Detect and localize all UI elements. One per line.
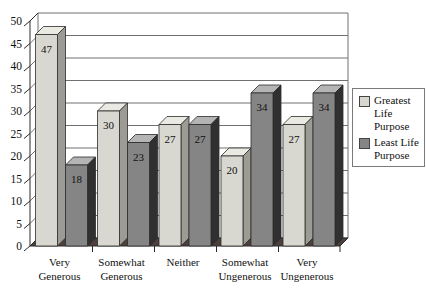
- x-axis-category-label: Neither: [167, 256, 200, 268]
- bar-value-label: 27: [165, 133, 177, 145]
- legend-label: Least Life Purpose: [374, 136, 421, 162]
- y-axis-tick: [24, 201, 30, 206]
- x-axis-category-label: Ungenerous: [218, 270, 271, 282]
- y-axis-tick: [24, 246, 30, 251]
- y-axis-tick: [24, 21, 30, 26]
- bar-value-label: 34: [257, 101, 269, 113]
- bar-greatest-very-generous: [36, 27, 66, 247]
- y-axis-tick-label: 25: [11, 128, 23, 140]
- y-axis-tick-label: 45: [11, 38, 23, 50]
- bar-value-label: 20: [227, 164, 239, 176]
- y-axis-top-corner: [30, 13, 38, 21]
- x-axis-category-label: Somewhat: [222, 256, 268, 268]
- y-axis-tick-label: 15: [11, 173, 23, 185]
- x-axis-category-label: Generous: [100, 270, 142, 282]
- y-axis-tick: [24, 134, 30, 139]
- legend-item: Greatest Life Purpose: [359, 94, 421, 133]
- y-axis-tick: [24, 89, 30, 94]
- bar-value-label: 27: [289, 133, 301, 145]
- y-axis-tick: [24, 179, 30, 184]
- bar-value-label: 47: [41, 43, 53, 55]
- y-axis-tick: [24, 44, 30, 49]
- y-axis-tick-label: 30: [11, 105, 23, 117]
- y-axis-tick: [24, 111, 30, 116]
- legend-swatch-greatest: [359, 96, 370, 107]
- legend-swatch-least: [359, 138, 370, 149]
- y-axis-tick-label: 20: [11, 150, 23, 162]
- x-axis-category-label: Generous: [38, 270, 80, 282]
- bar-value-label: 23: [133, 151, 145, 163]
- chart-figure: 0510152025303540455047183023272720342734…: [0, 0, 426, 288]
- y-axis-tick-label: 40: [11, 60, 23, 72]
- bar-greatest-somewhat-ungenerous: [221, 148, 251, 246]
- legend-item: Least Life Purpose: [359, 136, 421, 162]
- legend-label: Greatest Life Purpose: [374, 94, 421, 133]
- bar-value-label: 34: [319, 101, 331, 113]
- bar-least-very-generous: [66, 157, 96, 246]
- y-axis-tick-label: 5: [16, 218, 22, 230]
- x-axis-category-label: Very: [49, 256, 70, 268]
- bar-value-label: 18: [71, 173, 83, 185]
- legend: Greatest Life PurposeLeast Life Purpose: [352, 88, 425, 167]
- y-axis-tick-label: 10: [11, 195, 23, 207]
- y-axis-tick: [24, 156, 30, 161]
- bar-value-label: 30: [103, 119, 115, 131]
- x-axis-category-label: Somewhat: [98, 256, 144, 268]
- bar-value-label: 27: [195, 133, 207, 145]
- x-axis-category-label: Ungenerous: [280, 270, 333, 282]
- y-axis-tick: [24, 66, 30, 71]
- y-axis-tick-label: 35: [11, 83, 23, 95]
- y-axis-tick: [24, 224, 30, 229]
- x-axis-category-label: Very: [297, 256, 318, 268]
- y-axis-tick-label: 0: [16, 240, 22, 252]
- y-axis-tick-label: 50: [11, 15, 23, 27]
